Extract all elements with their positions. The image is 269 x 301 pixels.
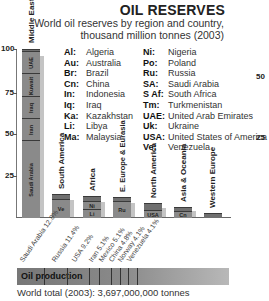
production-divider xyxy=(120,268,121,285)
legend-item: Ni:Nigeria xyxy=(143,47,267,58)
region-label: Western Europe xyxy=(208,147,217,208)
bar-segment-li: Li xyxy=(83,209,101,218)
right-tick-label: 25 xyxy=(256,133,265,142)
bar-segment-cn: Cn xyxy=(174,211,192,218)
y-axis xyxy=(16,49,17,217)
bar-segment-kuwait: Kuwait xyxy=(22,73,40,97)
legend-item: Ru:Russia xyxy=(143,68,267,79)
y-tick xyxy=(13,49,17,50)
y-tick xyxy=(13,134,17,135)
production-divider xyxy=(44,268,45,285)
legend-item: Uk:Ukraine xyxy=(143,121,267,132)
legend-item: S Af:South Africa xyxy=(143,89,267,100)
legend-item: Po:Poland xyxy=(143,58,267,69)
legend-item: UAE:United Arab Emirates xyxy=(143,111,267,122)
bar-western-europe xyxy=(204,213,222,218)
bar-middle-east: UAE Kuwait Iraq Iran Saudi Arabia xyxy=(22,49,40,217)
region-label: Africa xyxy=(88,168,97,191)
bar-shadow xyxy=(101,202,105,217)
bar-shadow xyxy=(70,200,74,217)
legend-item: Au:Australia xyxy=(64,58,133,69)
production-divider xyxy=(89,268,90,285)
bar-africa: Ni Li xyxy=(83,196,101,217)
bar-shadow xyxy=(131,203,135,217)
oil-production-bar: Oil production xyxy=(17,268,229,285)
production-divider xyxy=(111,268,112,285)
legend-item: USA:United States of America xyxy=(143,132,267,143)
bar-segment-uae: UAE xyxy=(22,51,40,74)
region-label: North America xyxy=(149,143,158,198)
production-divider xyxy=(99,268,100,285)
bar-asia-oceania: Cn xyxy=(174,207,192,217)
region-label: Middle East xyxy=(27,0,36,43)
production-divider xyxy=(67,268,68,285)
y-tick xyxy=(13,176,17,177)
legend-item: Iq:Iraq xyxy=(64,100,133,111)
production-divider xyxy=(128,268,129,285)
world-total-footer: World total (2003): 3,697,000,000 tonnes xyxy=(17,287,190,298)
legend-item: Tm:Turkmenistan xyxy=(143,100,267,111)
legend-item: In:Indonesia xyxy=(64,89,133,100)
legend-right: Ni:Nigeria Po:Poland Ru:Russia SA:Saudi … xyxy=(143,47,267,153)
legend-item: SA:Saudi Arabia xyxy=(143,79,267,90)
legend-item: Cn:China xyxy=(64,79,133,90)
chart-title: OIL RESERVES xyxy=(120,2,225,18)
bar-shadow xyxy=(192,211,196,217)
bar-segment-ru: Ru xyxy=(113,201,131,218)
bar-e-europe-eurasia: Ru xyxy=(113,197,131,217)
bar-segment-saudi-arabia: Saudi Arabia xyxy=(22,140,40,218)
production-divider xyxy=(137,268,138,285)
oil-production-title: Oil production xyxy=(21,271,83,281)
bar-shadow xyxy=(162,208,166,217)
bar-north-america: USA xyxy=(144,203,162,217)
region-label: Asia & Oceania xyxy=(179,144,188,202)
legend-item: Ve:Venezuela xyxy=(143,142,267,153)
right-tick-label: 50 xyxy=(256,72,265,81)
legend-item: Br:Brazil xyxy=(64,68,133,79)
legend-item: Al:Algeria xyxy=(64,47,133,58)
y-tick xyxy=(13,93,17,94)
chart-subtitle: World oil reserves by region and country… xyxy=(24,17,224,41)
bar-shadow xyxy=(40,56,44,217)
region-label: South America xyxy=(57,133,66,189)
bar-segment-usa: USA xyxy=(144,210,162,218)
bar-segment-iran: Iran xyxy=(22,118,40,141)
bar-segment-iraq: Iraq xyxy=(22,96,40,119)
region-label: E. Europe & Eurasia xyxy=(118,120,127,192)
